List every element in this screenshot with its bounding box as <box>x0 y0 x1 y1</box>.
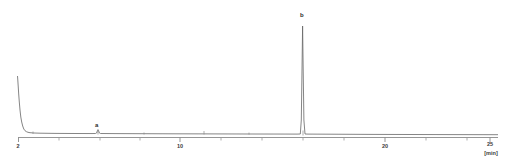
x-tick-label-25: 25 <box>487 142 493 148</box>
chromatogram-trace <box>0 0 508 160</box>
peak-label-a: a <box>95 122 98 128</box>
chromatogram-figure: a b 2 10 20 25 [min] <box>0 0 508 160</box>
x-axis-major-ticks <box>19 138 491 143</box>
x-axis-unit-label: [min] <box>484 151 497 157</box>
baseline-peak-markers <box>33 131 303 136</box>
x-tick-label-20: 20 <box>382 144 388 150</box>
signal-trace <box>18 26 499 135</box>
x-tick-label-2: 2 <box>16 144 19 150</box>
x-tick-label-10: 10 <box>177 144 183 150</box>
peak-label-b: b <box>300 12 304 18</box>
